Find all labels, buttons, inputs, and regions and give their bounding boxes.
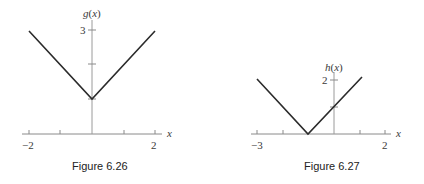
y-tick-label-top: 3 bbox=[80, 24, 86, 36]
x-tick-label-min: −3 bbox=[251, 139, 263, 151]
x-tick-label-min: −2 bbox=[22, 139, 34, 151]
x-tick-label-max: 2 bbox=[382, 139, 388, 151]
figure-caption: Figure 6.27 bbox=[304, 160, 360, 172]
figure-6-27: h(x) 2 x −3 2 Figure 6.27 bbox=[251, 61, 401, 172]
figure-caption: Figure 6.26 bbox=[72, 160, 128, 172]
x-axis-label: x bbox=[395, 127, 401, 139]
figures-canvas: g(x) 3 x −2 2 Figure 6.26 h(x) 2 x bbox=[0, 0, 424, 184]
figure-6-26: g(x) 3 x −2 2 Figure 6.26 bbox=[22, 7, 172, 172]
x-ticks bbox=[257, 130, 385, 134]
y-axis-label: g(x) bbox=[83, 7, 101, 20]
y-tick-label-top: 2 bbox=[322, 74, 328, 86]
x-axis-label: x bbox=[166, 127, 172, 139]
y-axis-label: h(x) bbox=[325, 61, 343, 74]
x-tick-label-max: 2 bbox=[151, 139, 157, 151]
h-curve bbox=[257, 77, 362, 134]
